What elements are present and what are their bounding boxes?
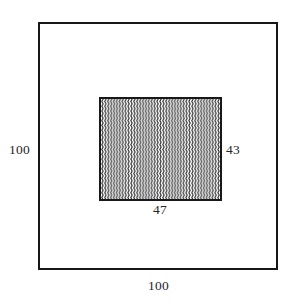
- inner-shaded-rectangle: [99, 97, 222, 201]
- outer-square-bottom-dimension-label: 100: [148, 279, 169, 293]
- geometry-figure: 100 43 47 100: [0, 0, 298, 305]
- inner-rect-right-dimension-label: 43: [226, 143, 240, 157]
- zigzag-hatch-pattern: [101, 99, 220, 199]
- inner-rect-bottom-dimension-label: 47: [153, 203, 167, 217]
- outer-square-left-dimension-label: 100: [9, 143, 30, 157]
